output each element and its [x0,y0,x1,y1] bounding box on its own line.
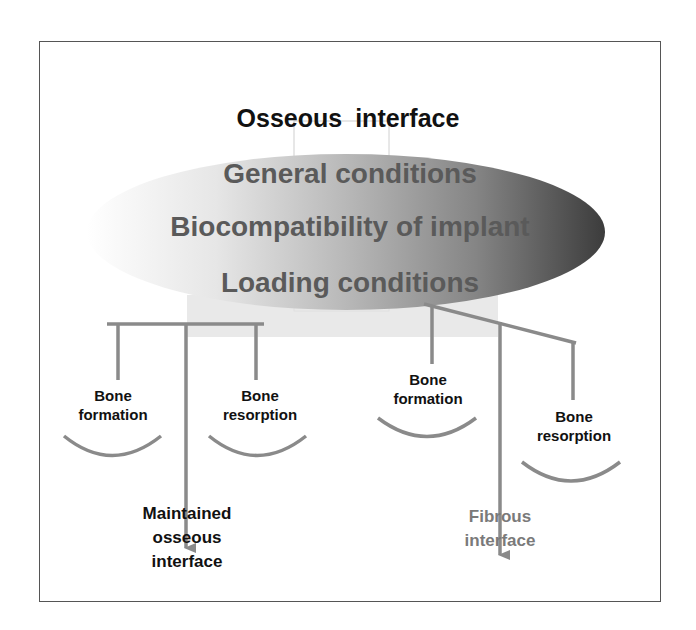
fibrous-line1: Fibrous [420,505,580,529]
diagram-graphics [0,0,696,630]
right-resorption-line2: resorption [514,426,634,445]
general-conditions-label: General conditions [100,160,600,188]
maintained-line1: Maintained [107,502,267,526]
right-bone-resorption-label: Bone resorption [514,407,634,445]
maintained-line3: interface [107,550,267,574]
fibrous-interface-label: Fibrous interface [420,505,580,553]
right-resorption-line1: Bone [514,407,634,426]
fibrous-line2: interface [420,529,580,553]
right-formation-line1: Bone [368,370,488,389]
left-resorption-line2: resorption [200,405,320,424]
left-resorption-line1: Bone [200,386,320,405]
left-formation-line1: Bone [53,386,173,405]
left-formation-line2: formation [53,405,173,424]
biocompatibility-label: Biocompatibility of implant [100,213,600,241]
right-formation-line2: formation [368,389,488,408]
left-resorption-arc [209,436,306,456]
loading-conditions-label: Loading conditions [100,269,600,297]
left-formation-arc [64,436,161,456]
diagram-title: Osseous interface [0,106,696,131]
right-resorption-arc [522,462,620,481]
maintained-line2: osseous [107,526,267,550]
right-bone-formation-label: Bone formation [368,370,488,408]
left-bone-formation-label: Bone formation [53,386,173,424]
right-formation-arc [378,418,476,437]
left-bone-resorption-label: Bone resorption [200,386,320,424]
maintained-osseous-interface-label: Maintained osseous interface [107,502,267,574]
